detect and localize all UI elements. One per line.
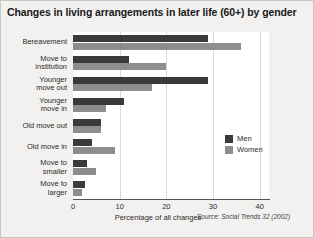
- bar-women: [73, 43, 241, 50]
- legend-swatch: [225, 135, 233, 143]
- y-axis-label: Old move in: [1, 143, 67, 152]
- bar-women: [73, 147, 115, 154]
- y-axis-label: Move tosmaller: [1, 159, 67, 176]
- bar-group: [73, 74, 269, 95]
- plot-area: [73, 32, 269, 199]
- y-axis-label: Move tolarger: [1, 180, 67, 197]
- y-axis-label: Bereavement: [1, 38, 67, 47]
- x-tick-label: 10: [107, 202, 133, 211]
- bar-men: [73, 56, 129, 63]
- bar-men: [73, 77, 208, 84]
- y-axis-label: Old move out: [1, 122, 67, 131]
- bar-men: [73, 160, 87, 167]
- bar-women: [73, 105, 106, 112]
- bar-women: [73, 126, 101, 133]
- bar-group: [73, 53, 269, 74]
- legend-item: Women: [225, 144, 263, 155]
- x-tick-label: 30: [200, 202, 226, 211]
- x-tick-label: 40: [247, 202, 273, 211]
- bar-women: [73, 189, 82, 196]
- y-axis-category-labels: BereavementMove toinstitutionYoungermove…: [1, 32, 70, 199]
- bar-women: [73, 84, 152, 91]
- chart-figure: Changes in living arrangements in later …: [0, 0, 314, 238]
- bar-men: [73, 119, 101, 126]
- bar-men: [73, 35, 208, 42]
- y-axis-label: Move toinstitution: [1, 55, 67, 72]
- x-tick-label: 20: [153, 202, 179, 211]
- legend-label: Men: [237, 135, 252, 143]
- bar-women: [73, 168, 96, 175]
- bar-women: [73, 63, 166, 70]
- legend-label: Women: [237, 146, 263, 154]
- y-axis-label: Youngermove out: [1, 76, 67, 93]
- y-axis-label: Youngermove in: [1, 97, 67, 114]
- bar-group: [73, 95, 269, 116]
- bar-men: [73, 139, 92, 146]
- legend-swatch: [225, 146, 233, 154]
- page-title: Changes in living arrangements in later …: [7, 6, 309, 18]
- bar-men: [73, 181, 85, 188]
- x-axis-line: [73, 199, 270, 200]
- bar-men: [73, 98, 124, 105]
- bar-group: [73, 157, 269, 178]
- bar-group: [73, 32, 269, 53]
- legend: MenWomen: [225, 133, 263, 155]
- bar-group: [73, 178, 269, 199]
- legend-item: Men: [225, 133, 263, 144]
- x-tick-label: 0: [60, 202, 86, 211]
- source-note: Source: Social Trends 32 (2002): [197, 213, 311, 220]
